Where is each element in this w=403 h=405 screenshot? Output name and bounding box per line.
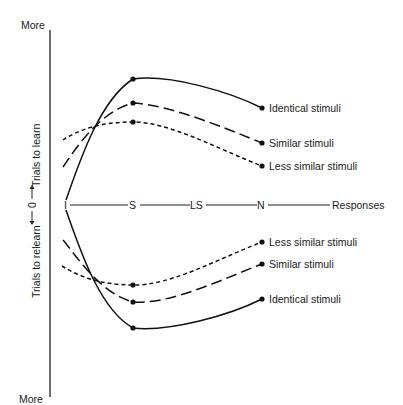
x-tick-LS: LS (190, 199, 203, 211)
y-axis-bottom-label: More (19, 393, 43, 405)
x-tick-N: N (257, 199, 265, 211)
arrow-down-icon (30, 221, 35, 225)
x-axis-label: Responses (332, 199, 385, 211)
lower-curves: Less similar stimuli Similar stimuli Ide… (62, 210, 357, 331)
y-axis-down-label: Trials to relearn (30, 225, 42, 298)
label-relearn-identical: Identical stimuli (269, 293, 341, 305)
label-relearn-similar: Similar stimuli (269, 258, 334, 270)
y-axis-up-label: Trials to learn (30, 124, 42, 187)
label-relearn-less-similar: Less similar stimuli (269, 236, 357, 248)
y-axis-top-label: More (21, 19, 45, 31)
upper-curves: Identical stimuli Similar stimuli Less s… (63, 76, 357, 200)
label-learn-less-similar: Less similar stimuli (269, 160, 357, 172)
x-tick-S: S (129, 199, 136, 211)
curve-learn-similar (63, 103, 262, 167)
curve-relearn-less-similar (62, 242, 262, 285)
curve-relearn-similar (63, 240, 262, 302)
x-axis-baseline: I S LS N Responses (64, 199, 385, 211)
y-axis-labels: 0 Trials to learn Trials to relearn (26, 124, 42, 298)
label-learn-similar: Similar stimuli (269, 137, 334, 149)
curve-relearn-identical (66, 210, 262, 329)
similarity-transfer-diagram: More More 0 Trials to learn Trials to re… (0, 0, 403, 405)
x-tick-I: I (64, 199, 67, 211)
label-learn-identical: Identical stimuli (269, 102, 341, 114)
y-axis-zero-label: 0 (26, 202, 38, 208)
curve-learn-identical (66, 78, 262, 200)
